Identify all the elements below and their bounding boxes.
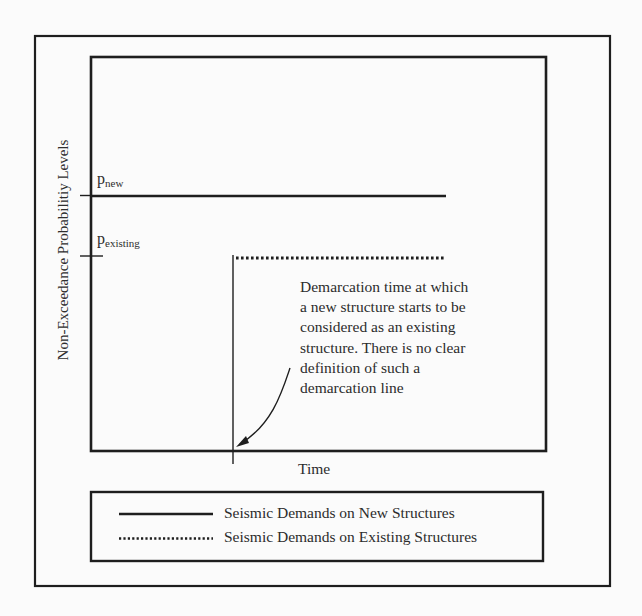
p-existing-label-base: p — [97, 230, 105, 247]
annotation-line: Demarcation time at which — [300, 277, 550, 297]
legend-frame — [91, 492, 543, 561]
legend-item-new-structures: Seismic Demands on New Structures — [224, 504, 455, 522]
annotation-line: considered as an existing — [300, 317, 550, 337]
p-new-label-sub: new — [105, 177, 123, 189]
annotation-line: structure. There is no clear — [300, 338, 550, 358]
legend-item-existing-structures: Seismic Demands on Existing Structures — [224, 528, 477, 546]
x-axis-label: Time — [298, 460, 330, 478]
annotation-arrow — [240, 368, 290, 444]
p-existing-label-sub: existing — [105, 237, 140, 249]
annotation-line: demarcation line — [300, 378, 550, 398]
p-new-label: pnew — [97, 170, 123, 189]
demarcation-annotation: Demarcation time at which a new structur… — [300, 277, 550, 398]
annotation-line: definition of such a — [300, 358, 550, 378]
y-axis-label: Non-Exceedance Probabilitiy Levels — [55, 140, 72, 361]
p-new-label-base: p — [97, 170, 105, 187]
annotation-line: a new structure starts to be — [300, 297, 550, 317]
p-existing-label: pexisting — [97, 230, 140, 249]
arrowhead-icon — [236, 436, 249, 447]
